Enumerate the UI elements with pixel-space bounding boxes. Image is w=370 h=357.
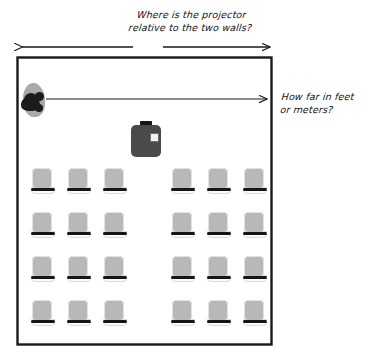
seat-r1-c2 [68,168,90,196]
seat-bar [171,232,195,235]
seat-back [172,168,192,189]
seat-r1-c3 [104,168,126,196]
seat-bar [67,188,91,191]
projector-device [131,121,161,157]
room-wall-outline [18,58,272,345]
seat-back [104,212,124,233]
seat-bar [243,232,267,235]
seat-r2-c6 [244,212,266,240]
seat-back [172,300,192,321]
seat-bar [103,320,127,323]
seat-bar [171,188,195,191]
seat-back [32,256,52,277]
seat-bar [207,232,231,235]
seat-r3-c1 [32,256,54,284]
seat-r4-c3 [104,300,126,328]
seat-back [68,212,88,233]
seat-r1-c6 [244,168,266,196]
seat-r2-c2 [68,212,90,240]
seat-back [208,300,228,321]
seat-r1-c5 [208,168,230,196]
seat-bar [103,188,127,191]
seat-r4-c2 [68,300,90,328]
seat-bar [243,320,267,323]
seat-back [104,256,124,277]
seat-back [104,168,124,189]
seat-r4-c4 [172,300,194,328]
seat-bar [31,232,55,235]
seat-bar [103,276,127,279]
seat-bar [31,320,55,323]
diagram-canvas: Where is the projector relative to the t… [0,0,370,357]
seat-bar [207,320,231,323]
presenter-figure [19,83,49,117]
seat-back [244,256,264,277]
seat-back [172,256,192,277]
seat-r2-c4 [172,212,194,240]
seat-r4-c6 [244,300,266,328]
seat-r3-c6 [244,256,266,284]
presenter-arm-upper [35,92,44,101]
seat-back [32,168,52,189]
seat-back [244,300,264,321]
seat-bar [207,276,231,279]
seat-r2-c3 [104,212,126,240]
seat-r3-c4 [172,256,194,284]
seat-r2-c5 [208,212,230,240]
presenter-arm-lower [35,104,43,112]
seat-r3-c3 [104,256,126,284]
seat-back [208,168,228,189]
seat-back [244,168,264,189]
seat-back [208,212,228,233]
seat-r1-c1 [32,168,54,196]
seat-back [68,168,88,189]
seat-back [68,256,88,277]
seat-bar [31,188,55,191]
projector-lens-icon [150,133,159,142]
seat-bar [207,188,231,191]
seat-bar [67,232,91,235]
seat-bar [31,276,55,279]
seat-back [104,300,124,321]
seat-back [68,300,88,321]
seat-r4-c5 [208,300,230,328]
seat-back [32,212,52,233]
seat-back [32,300,52,321]
seat-bar [103,232,127,235]
seat-back [208,256,228,277]
seat-r4-c1 [32,300,54,328]
seat-bar [67,276,91,279]
seat-r1-c4 [172,168,194,196]
seat-back [244,212,264,233]
seat-bar [171,320,195,323]
seat-r2-c1 [32,212,54,240]
seat-bar [171,276,195,279]
seat-back [172,212,192,233]
seat-bar [243,276,267,279]
seat-r3-c2 [68,256,90,284]
seat-bar [67,320,91,323]
seat-bar [243,188,267,191]
seat-r3-c5 [208,256,230,284]
